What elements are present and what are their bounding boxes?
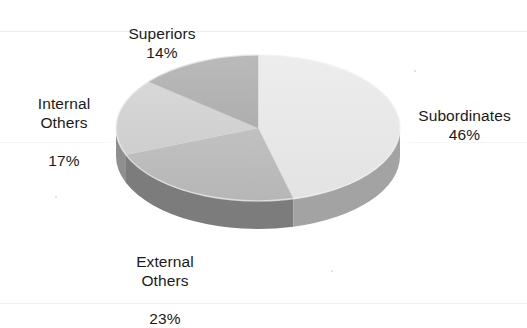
pie-label-internal-others: Internal Others 17% <box>10 76 118 189</box>
pie-label-internal-others-name-line1: Internal <box>38 95 91 112</box>
pie-label-internal-others-name-line2: Others <box>10 114 118 133</box>
pie-label-subordinates-name: Subordinates <box>418 107 511 124</box>
pie-label-external-others-name-line1: External <box>136 253 194 270</box>
pie-label-internal-others-percent: 17% <box>10 152 118 171</box>
pie-label-external-others-percent: 23% <box>104 310 226 328</box>
pie-label-subordinates-percent: 46% <box>402 126 527 145</box>
pie-label-superiors: Superiors 14% <box>92 6 232 82</box>
pie-label-external-others-name-line2: Others <box>104 272 226 291</box>
pie-label-external-others: External Others 23% <box>104 234 226 328</box>
pie-label-subordinates: Subordinates 46% <box>402 88 527 164</box>
pie-label-superiors-name: Superiors <box>128 25 195 42</box>
pie-label-superiors-percent: 14% <box>92 44 232 63</box>
